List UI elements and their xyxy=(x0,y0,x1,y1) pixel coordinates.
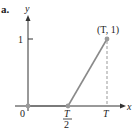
graph-figure: a. y x 1 0 (T, 1) T 2 T xyxy=(0,0,135,130)
x-tick-half-denominator: 2 xyxy=(64,119,69,130)
point-origin xyxy=(26,104,31,109)
x-axis-arrow-icon xyxy=(120,104,126,109)
point-label: (T, 1) xyxy=(97,24,119,36)
graph-segment-rising xyxy=(68,39,107,106)
origin-label: 0 xyxy=(20,108,25,119)
y-axis-label: y xyxy=(24,3,30,14)
y-tick-label: 1 xyxy=(18,34,23,45)
x-tick-half-numerator: T xyxy=(64,108,71,119)
x-tick-T-label: T xyxy=(103,108,110,119)
y-axis-arrow-icon xyxy=(26,15,31,21)
panel-label: a. xyxy=(1,3,10,15)
x-axis-label: x xyxy=(126,101,132,112)
point-T-1 xyxy=(105,37,110,42)
